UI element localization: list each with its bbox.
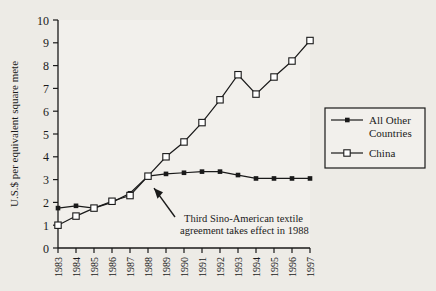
annotation-text-line1: Third Sino-American textile	[184, 213, 303, 224]
y-axis-tick-label: 1	[43, 219, 49, 233]
data-point-marker	[182, 170, 187, 175]
y-axis-tick-label: 9	[43, 36, 49, 50]
data-point-marker	[73, 213, 79, 219]
y-axis-tick-label: 3	[43, 173, 49, 187]
data-point-marker	[91, 205, 97, 211]
x-axis-tick-label: 1992	[215, 257, 226, 277]
data-point-marker	[254, 176, 259, 181]
chart-figure: 012345678910U.S.$ per equivalent square …	[0, 0, 436, 291]
x-axis-tick-label: 1993	[233, 257, 244, 277]
data-point-marker	[55, 222, 61, 228]
x-axis-tick-label: 1983	[53, 257, 64, 277]
legend-label-all-other-countries-line1: All Other	[369, 114, 411, 126]
y-axis-tick-label: 5	[43, 128, 49, 142]
data-point-marker	[236, 173, 241, 178]
x-axis-tick-label: 1989	[161, 257, 172, 277]
x-axis-tick-label: 1997	[305, 257, 316, 277]
legend-label-china: China	[369, 147, 395, 159]
y-axis-tick-label: 6	[43, 105, 49, 119]
data-point-marker	[164, 172, 169, 177]
data-point-marker	[127, 192, 133, 198]
data-point-marker	[200, 169, 205, 174]
x-axis-tick-label: 1985	[89, 257, 100, 277]
data-point-marker	[163, 154, 169, 160]
y-axis-tick-label: 10	[37, 14, 49, 28]
legend-marker-china	[344, 150, 350, 156]
data-point-marker	[56, 206, 61, 211]
data-point-marker	[181, 139, 187, 145]
data-point-marker	[308, 176, 313, 181]
data-point-marker	[290, 176, 295, 181]
y-axis-tick-label: 2	[43, 196, 49, 210]
x-axis-tick-label: 1987	[125, 257, 136, 277]
x-axis-tick-label: 1984	[71, 257, 82, 277]
line-chart: 012345678910U.S.$ per equivalent square …	[0, 0, 436, 291]
data-point-marker	[74, 204, 79, 209]
legend-marker-all-other-countries	[345, 118, 350, 123]
x-axis-tick-label: 1990	[179, 257, 190, 277]
y-axis-tick-label: 4	[43, 150, 49, 164]
data-point-marker	[109, 198, 115, 204]
data-point-marker	[271, 74, 277, 80]
x-axis-tick-label: 1988	[143, 257, 154, 277]
y-axis-tick-label: 0	[43, 242, 49, 256]
data-point-marker	[217, 97, 223, 103]
annotation-text-line2: agreement takes effect in 1988	[180, 225, 309, 236]
x-axis-tick-label: 1991	[197, 257, 208, 277]
data-point-marker	[199, 119, 205, 125]
x-axis-tick-label: 1995	[269, 257, 280, 277]
data-point-marker	[145, 173, 151, 179]
data-point-marker	[235, 72, 241, 78]
data-point-marker	[218, 169, 223, 174]
data-point-marker	[272, 176, 277, 181]
x-axis-tick-label: 1996	[287, 257, 298, 277]
x-axis-tick-label: 1986	[107, 257, 118, 277]
y-axis-title: U.S.$ per equivalent square mete	[8, 61, 20, 207]
data-point-marker	[289, 58, 295, 64]
y-axis-tick-label: 7	[43, 82, 49, 96]
y-axis-tick-label: 8	[43, 59, 49, 73]
legend-label-all-other-countries-line2: Countries	[369, 127, 412, 139]
data-point-marker	[253, 91, 259, 97]
x-axis-tick-label: 1994	[251, 257, 262, 277]
data-point-marker	[307, 37, 313, 43]
